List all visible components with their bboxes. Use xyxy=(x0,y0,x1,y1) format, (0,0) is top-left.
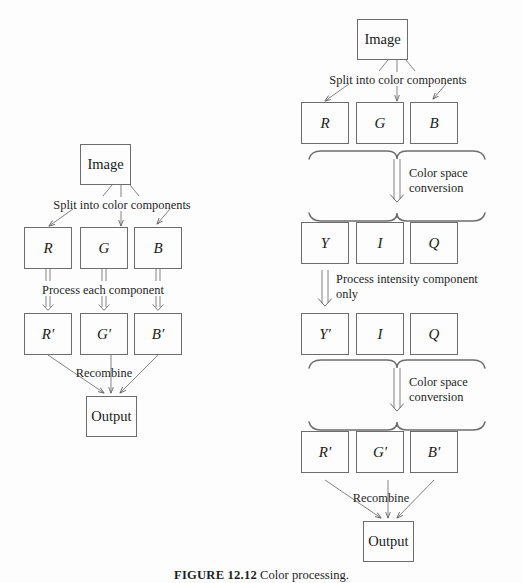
right-output-box: Output xyxy=(363,521,414,562)
left-component-r: R xyxy=(24,227,72,269)
right-yiq-processed-i: I xyxy=(356,313,404,355)
left-component-g: G xyxy=(80,227,128,269)
right-yiq-q: Q xyxy=(410,222,458,264)
right-yiq-i: I xyxy=(356,222,404,264)
right-yiq-processed-y: Y′ xyxy=(301,313,349,355)
right-component-b: B xyxy=(410,102,458,144)
right-recombine-label: Recombine xyxy=(353,491,409,506)
right-component-g: G xyxy=(356,102,404,144)
right-processed-r: R′ xyxy=(301,431,349,473)
right-yiq-y: Y xyxy=(301,222,349,264)
left-output-box: Output xyxy=(86,396,137,437)
left-recombine-label: Recombine xyxy=(76,366,132,381)
left-image-box: Image xyxy=(80,144,131,185)
right-processed-b: B′ xyxy=(410,431,458,473)
right-split-label: Split into color components xyxy=(329,73,466,88)
right-image-box: Image xyxy=(357,19,408,60)
left-split-label: Split into color components xyxy=(53,198,190,213)
left-processed-b: B′ xyxy=(134,313,182,355)
left-process-label: Process each component xyxy=(42,283,164,298)
left-processed-g: G′ xyxy=(80,313,128,355)
right-conversion-label-2: Color space conversion xyxy=(409,375,468,404)
left-processed-r: R′ xyxy=(24,313,72,355)
right-conversion-label-1: Color space conversion xyxy=(409,166,468,195)
figure-caption: FIGURE 12.12 Color processing. xyxy=(0,568,523,583)
right-intensity-label: Process intensity component only xyxy=(336,272,478,301)
figure-caption-text: Color processing. xyxy=(260,568,349,582)
right-component-r: R xyxy=(301,102,349,144)
figure-caption-label: FIGURE 12.12 xyxy=(174,568,257,582)
right-processed-g: G′ xyxy=(356,431,404,473)
right-yiq-processed-q: Q xyxy=(410,313,458,355)
left-component-b: B xyxy=(134,227,182,269)
